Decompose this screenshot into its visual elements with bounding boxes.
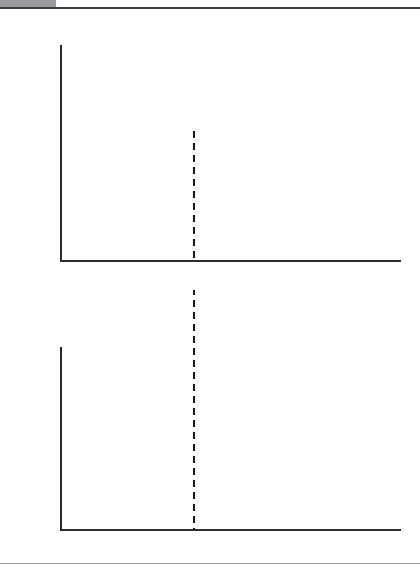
cost-of-capital-chart (0, 0, 420, 290)
bottom-axes (61, 348, 400, 530)
top-axes (61, 46, 400, 261)
figure-root (0, 0, 420, 572)
value-of-firm-chart (0, 290, 420, 572)
